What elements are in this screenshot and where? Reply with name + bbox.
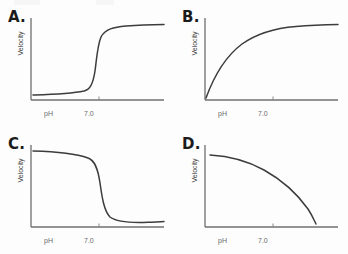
panel-c: C. Velocity pH 7.0 (0, 127, 174, 254)
panel-d-xtick-ph: pH (218, 237, 227, 244)
panel-d-plot-area (204, 145, 340, 235)
panel-d: D. Velocity pH 7.0 (174, 127, 348, 254)
panel-a-y-axis-label: Velocity (17, 18, 24, 70)
panel-c-svg (30, 145, 166, 235)
panel-a-xtick-ph: pH (44, 110, 53, 117)
figure-ph-velocity-curves: A. Velocity pH 7.0 B. Velocity pH 7.0 (0, 0, 348, 254)
panel-c-xtick-seven: 7.0 (84, 237, 94, 244)
panel-b-xtick-ph: pH (218, 110, 227, 117)
panel-d-y-axis-label: Velocity (191, 145, 198, 197)
panel-d-curve (210, 155, 316, 224)
panel-a-xtick-seven: 7.0 (84, 110, 94, 117)
panel-b-plot-area (204, 18, 340, 108)
panel-b-svg (204, 18, 340, 108)
panel-b-y-axis-label: Velocity (191, 18, 198, 70)
panel-c-y-axis-label: Velocity (17, 145, 24, 197)
panel-a-plot-area (30, 18, 166, 108)
panel-a-curve (33, 24, 164, 95)
panel-b-curve (206, 25, 338, 98)
panel-a-svg (30, 18, 166, 108)
panel-d-xtick-seven: 7.0 (258, 237, 268, 244)
panel-a: A. Velocity pH 7.0 (0, 0, 174, 127)
panel-c-xtick-ph: pH (44, 237, 53, 244)
panel-c-plot-area (30, 145, 166, 235)
panel-b-xtick-seven: 7.0 (258, 110, 268, 117)
panel-b: B. Velocity pH 7.0 (174, 0, 348, 127)
panel-d-svg (204, 145, 340, 235)
panel-c-curve (33, 151, 164, 222)
